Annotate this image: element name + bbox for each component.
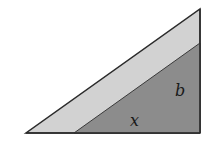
triangle-diagram: b x bbox=[0, 0, 220, 147]
label-b: b bbox=[175, 81, 185, 100]
label-x: x bbox=[130, 111, 139, 130]
